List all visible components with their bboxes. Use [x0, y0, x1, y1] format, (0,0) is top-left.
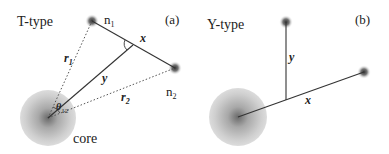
n1-label: n1 — [104, 12, 115, 29]
y-label-b: y — [287, 50, 295, 64]
core-label: core — [73, 131, 97, 146]
x-label-b: x — [304, 93, 311, 107]
x-bond-line — [92, 21, 175, 68]
r1-label: r1 — [64, 51, 73, 67]
panel-a: T-type (a) n1 n2 x y r1 r2 θ12 core — [17, 12, 182, 146]
x-label-a: x — [139, 31, 146, 45]
t-type-label: T-type — [17, 14, 53, 29]
panel-b: Y-type (b) y x — [207, 12, 371, 146]
n2-label: n2 — [166, 84, 177, 101]
angle-arc-xy — [124, 40, 127, 50]
x-line-b — [238, 72, 364, 117]
diagram-canvas: T-type (a) n1 n2 x y r1 r2 θ12 core Y-ty… — [0, 0, 389, 154]
r2-label: r2 — [121, 90, 130, 106]
y-type-label: Y-type — [207, 17, 244, 32]
panel-b-label: (b) — [355, 12, 370, 27]
y-label-a: y — [100, 71, 108, 85]
panel-a-label: (a) — [165, 12, 179, 27]
